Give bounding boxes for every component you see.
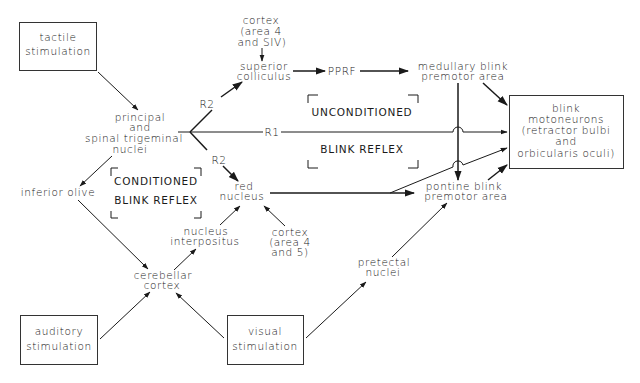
pontine-label-2: premotor area — [424, 190, 507, 202]
medullary-to-motoneurons-arrow — [483, 83, 507, 105]
blink-motoneurons-box: blink motoneurons (retractor bulbi and o… — [510, 96, 624, 169]
blink-reflex-diagram: tactile stimulation auditory stimulation… — [0, 0, 640, 383]
auditory-label-2: stimulation — [26, 340, 91, 352]
visual-to-cerebellar-arrow — [176, 293, 224, 338]
pontine-blink-premotor-node: pontine blink premotor area — [424, 180, 507, 202]
nucleus-interpositus-node: nucleus interpositus — [170, 225, 239, 247]
trigeminal-to-olive-arrow — [80, 156, 112, 186]
inferior-olive-node: inferior olive — [21, 186, 95, 198]
unconditioned-label: UNCONDITIONED — [312, 106, 413, 118]
conditioned-sub-label: BLINK REFLEX — [114, 194, 197, 206]
r2-down-line — [190, 132, 207, 150]
red-nucleus-label-2: nucleus — [220, 190, 265, 202]
trigeminal-label-4: nuclei — [113, 143, 148, 155]
visual-stimulation-box: visual stimulation — [228, 316, 304, 365]
visual-label-1: visual — [248, 325, 282, 337]
visual-label-2: stimulation — [232, 340, 297, 352]
cerebellar-to-interpositus-arrow — [174, 249, 196, 270]
superior-colliculus-label-2: colliculus — [237, 70, 291, 82]
cortex-area4-sIV-node: cortex (area 4 and SIV) — [238, 14, 287, 48]
pretectal-label-2: nuclei — [366, 266, 401, 278]
r1-arrow — [190, 127, 507, 132]
conditioned-reflex-bracket: CONDITIONED BLINK REFLEX — [111, 168, 201, 218]
motoneurons-label-4: and — [555, 135, 577, 147]
olive-to-cerebellar-arrow — [78, 200, 148, 269]
trigeminal-nuclei-node: principal and spinal trigeminal nuclei — [85, 111, 183, 155]
unconditioned-sub-label: BLINK REFLEX — [320, 143, 403, 155]
r2-up-arrow — [190, 110, 212, 132]
r2-up-arrow-head-segment — [221, 82, 242, 97]
tactile-label-1: tactile — [40, 31, 77, 43]
cortex-bottom-label-3: and 5) — [271, 246, 308, 258]
r2-down-arrow — [223, 166, 238, 181]
pontine-to-motoneurons-arrow — [488, 165, 507, 180]
interpositus-to-red-nucleus-arrow — [220, 206, 240, 225]
cortex-area4-5-node: cortex (area 4 and 5) — [269, 226, 311, 258]
cortex-top-label-3: and SIV) — [238, 36, 287, 48]
r2-up-label: R2 — [199, 98, 214, 110]
auditory-to-cerebellar-arrow — [100, 292, 150, 339]
pprf-node: PPRF — [328, 65, 356, 77]
motoneurons-label-5: orbicularis oculi) — [517, 147, 615, 159]
nucleus-interpositus-label-2: interpositus — [170, 235, 239, 247]
pretectal-to-pontine-arrow — [392, 203, 447, 257]
tactile-to-trigeminal-arrow — [98, 72, 138, 110]
cortex-to-red-nucleus-arrow — [264, 206, 285, 226]
red-nucleus-node: red nucleus — [220, 180, 265, 202]
r2-down-label: R2 — [211, 154, 226, 166]
medullary-blink-premotor-node: medullary blink premotor area — [418, 60, 508, 82]
r1-label: R1 — [264, 126, 279, 138]
auditory-label-1: auditory — [35, 325, 84, 337]
tactile-stimulation-box: tactile stimulation — [20, 23, 97, 71]
pretectal-nuclei-node: pretectal nuclei — [358, 256, 410, 278]
conditioned-label: CONDITIONED — [114, 175, 198, 187]
superior-colliculus-node: superior colliculus — [237, 60, 291, 82]
tactile-label-2: stimulation — [25, 45, 90, 57]
cerebellar-label-2: cortex — [144, 279, 181, 291]
visual-to-pretectal-arrow — [306, 282, 366, 338]
cerebellar-cortex-node: cerebellar cortex — [134, 269, 193, 291]
medullary-label-2: premotor area — [421, 70, 504, 82]
auditory-stimulation-box: auditory stimulation — [21, 316, 98, 365]
